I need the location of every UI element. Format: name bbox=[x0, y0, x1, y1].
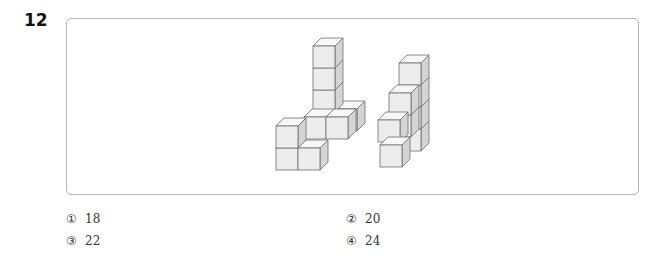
option-1[interactable]: ①18 bbox=[66, 212, 100, 226]
option-2[interactable]: ②20 bbox=[346, 212, 380, 226]
option-2-value: 20 bbox=[365, 212, 380, 226]
option-4-marker: ④ bbox=[346, 234, 357, 248]
left-cube-structure bbox=[276, 38, 365, 170]
right-cube-structure bbox=[378, 55, 429, 167]
option-3-marker: ③ bbox=[66, 234, 77, 248]
option-1-marker: ① bbox=[66, 212, 77, 226]
option-2-marker: ② bbox=[346, 212, 357, 226]
option-4[interactable]: ④24 bbox=[346, 234, 380, 248]
option-3-value: 22 bbox=[85, 234, 100, 248]
option-1-value: 18 bbox=[85, 212, 100, 226]
option-4-value: 24 bbox=[365, 234, 380, 248]
option-3[interactable]: ③22 bbox=[66, 234, 100, 248]
